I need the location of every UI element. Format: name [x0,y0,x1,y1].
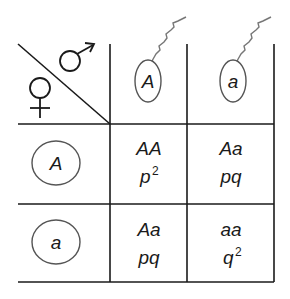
punnett-square-diagram: A a A a AA p 2 Aa pq Aa pq aa q 2 [0,0,290,299]
cell-r2-c1: Aa pq [136,219,160,268]
sperm-gamete-a: a [220,17,271,102]
sperm-tail-icon [237,17,271,61]
cell-r1-c2: Aa pq [218,138,242,187]
egg-gamete-A: A [32,141,80,185]
frequency-exponent: 2 [235,245,242,259]
genotype-label: AA [135,138,161,159]
male-symbol-icon [60,43,94,71]
frequency-exponent: 2 [152,164,159,178]
frequency-label: pq [137,247,160,268]
cell-r1-c1: AA p 2 [135,138,161,187]
frequency-label: pq [219,166,242,187]
egg-gamete-a: a [32,220,80,264]
egg-allele-label: a [51,232,62,253]
female-symbol-icon [30,78,50,118]
frequency-label: p [139,166,151,187]
cell-r2-c2: aa q 2 [220,219,242,268]
sperm-allele-label: A [141,71,155,92]
sperm-gamete-A: A [135,17,186,102]
genotype-label: Aa [136,219,160,240]
frequency-label: q [223,247,234,268]
sperm-allele-label: a [228,71,239,92]
egg-allele-label: A [49,153,63,174]
genotype-label: Aa [218,138,242,159]
genotype-label: aa [220,219,241,240]
sperm-tail-icon [152,17,186,61]
